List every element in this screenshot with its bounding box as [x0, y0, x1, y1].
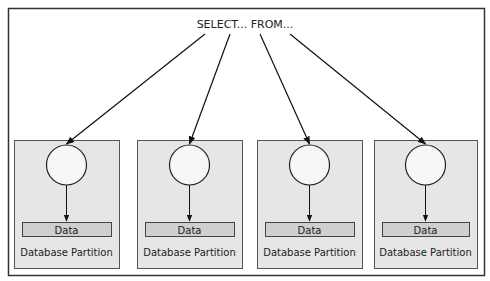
- partition-label: Database Partition: [379, 247, 472, 258]
- data-label: Data: [178, 225, 202, 236]
- node-circle: [406, 145, 446, 185]
- partition-label: Database Partition: [263, 247, 356, 258]
- diagram: SELECT... FROM... DataDatabase Partition…: [0, 0, 490, 281]
- partition-label: Database Partition: [143, 247, 236, 258]
- partition-label: Database Partition: [20, 247, 113, 258]
- node-circle: [170, 145, 210, 185]
- query-label: SELECT... FROM...: [197, 18, 294, 31]
- node-circle: [47, 145, 87, 185]
- data-label: Data: [55, 225, 79, 236]
- data-label: Data: [414, 225, 438, 236]
- database-partition: DataDatabase Partition: [258, 141, 363, 269]
- database-partition: DataDatabase Partition: [375, 141, 478, 269]
- data-label: Data: [298, 225, 322, 236]
- database-partition: DataDatabase Partition: [138, 141, 243, 269]
- database-partition: DataDatabase Partition: [15, 141, 120, 269]
- node-circle: [290, 145, 330, 185]
